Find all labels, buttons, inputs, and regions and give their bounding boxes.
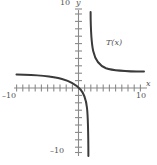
y-axis-min-label: –10: [50, 147, 64, 155]
x-axis-label: x: [146, 80, 151, 88]
x-axis-min-label: –10: [2, 92, 16, 100]
y-axis-max-label: 10: [60, 0, 70, 7]
curve-left-branch: [17, 75, 89, 157]
graph-figure: 10 y –10 10 x –10 T(x): [0, 0, 157, 165]
x-axis-max-label: 10: [136, 92, 146, 100]
function-label: T(x): [106, 39, 122, 47]
y-axis-label: y: [76, 0, 81, 7]
coordinate-plot: [0, 0, 157, 165]
